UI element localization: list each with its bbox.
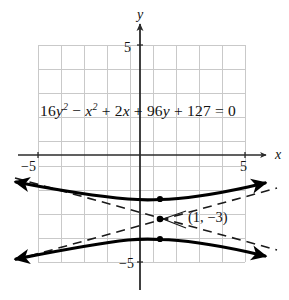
- grid-lines: [38, 45, 245, 262]
- equation-term1-coeff: 16: [40, 102, 56, 119]
- equation-equals: =: [215, 102, 224, 119]
- center-point: [157, 216, 164, 223]
- marked-points: [157, 196, 164, 242]
- x-axis-tick-label-5: 5: [240, 160, 247, 174]
- y-axis-label: y: [137, 8, 143, 22]
- equation-op1: −: [72, 102, 81, 119]
- equation-op3: +: [134, 102, 143, 119]
- y-axis-tick-label-5: 5: [124, 41, 131, 55]
- equation-label: 16y2 − x2 + 2x + 96y + 127 = 0: [40, 103, 236, 119]
- center-point-label: (1, −3): [188, 210, 228, 225]
- vertex-lower-point: [157, 236, 163, 242]
- x-axis-label: x: [275, 148, 281, 162]
- equation-term4: 96: [147, 102, 163, 119]
- equation-op2: +: [102, 102, 111, 119]
- hyperbola-figure: 16y2 − x2 + 2x + 96y + 127 = 0 (1, −3) y…: [0, 0, 289, 300]
- equation-op4: +: [174, 102, 183, 119]
- equation-term2-exp: 2: [92, 101, 97, 112]
- vertex-upper-point: [157, 196, 163, 202]
- equation-term3: 2: [115, 102, 123, 119]
- equation-term3-var: x: [123, 102, 130, 119]
- equation-term1-var: y: [56, 102, 63, 119]
- equation-term4-var: y: [163, 102, 170, 119]
- equation-rhs: 0: [228, 102, 236, 119]
- x-axis-tick-label-neg5: −5: [21, 160, 36, 174]
- graph-canvas: [0, 0, 289, 300]
- equation-term5: 127: [187, 102, 211, 119]
- y-axis-tick-label-neg5: −5: [119, 257, 134, 271]
- equation-term1-exp: 2: [63, 101, 68, 112]
